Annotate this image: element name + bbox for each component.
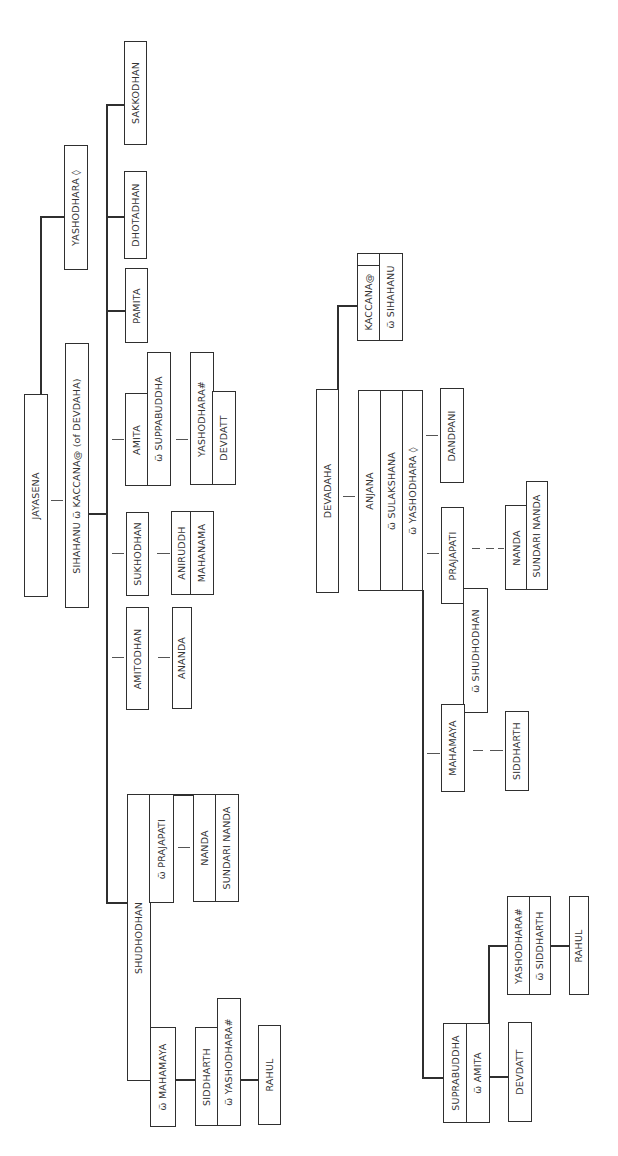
connector-line [106,104,125,106]
connector-line [40,216,42,395]
node-label: SIHAHANU ѿ KACCANA@ (of DEVDAHA) [72,378,82,574]
node-kaccana: KACCANA@ [357,253,381,341]
connector-dash [343,496,355,497]
node-label: DEVDATT [515,1049,525,1095]
node-devdatt-r: DEVDATT [508,1022,532,1122]
node-yashodhara-hash-r: YASHODHARA# [507,896,531,995]
connector-line [337,305,339,390]
node-yashodhara-hash: YASHODHARA# [190,352,214,485]
node-label: MAHAMAYA [448,720,458,775]
node-label: SIDDHARTH [202,1048,212,1106]
node-label: ѿ SULAKSHANA [387,452,397,530]
node-sukhodhan: SUKHODHAN [126,512,149,596]
node-label: YASHODHARA ◊ [71,169,81,245]
node-anjana: ANJANA [358,390,381,591]
node-label: ANANDA [177,637,187,679]
connector-line [88,513,107,515]
node-devdatt: DEVDATT [212,391,236,485]
node-dandpani: DANDPANI [440,388,464,483]
node-siddharth-husband: ѿ SIDDHARTH [529,896,551,995]
node-yashodhara-hash-wife: ѿ YASHODHARA# [217,998,241,1126]
node-rahul-r: RAHUL [569,896,589,995]
node-suppabuddha: ѿ SUPPABUDDHA [147,352,171,486]
node-mahamaya: MAHAMAYA [441,704,465,792]
node-label: ѿ PRAJAPATI [157,818,167,878]
node-label: ANIRUDDH [177,526,187,579]
node-label: NANDA [512,530,522,565]
node-amita-wife: ѿ AMITA [466,1023,490,1123]
node-label: DHOTADHAN [131,183,141,246]
connector-dash [112,439,124,440]
node-label: AMITODHAN [133,628,143,689]
connector-line [488,945,508,947]
node-label: ѿ SHUDHODHAN [471,609,481,693]
node-label: SIDDHARTH [512,722,522,780]
node-label: ѿ YASHODHARA# [224,1018,234,1105]
node-prajapati-wife: ѿ PRAJAPATI [149,794,174,903]
node-label: ѿ AMITA [473,1052,483,1093]
node-label: RAHUL [574,929,584,962]
node-mahamaya-wife: ѿ MAHAMAYA [150,1027,176,1127]
node-label: ѿ SUPPABUDDHA [154,376,164,462]
node-label: YASHODHARA# [197,380,207,456]
connector-line [422,1077,444,1079]
node-label: NANDA [200,830,210,865]
node-amita: AMITA [125,393,149,486]
node-suprabuddha: SUPRABUDDHA [443,1023,468,1123]
node-label: MAHANAMA [197,524,207,582]
connector-line [175,1079,195,1081]
node-label: SAKKODHAN [131,62,141,124]
node-label: AMITA [132,424,142,454]
connector-dash [158,657,170,658]
connector-line [489,1076,509,1078]
node-label: RAHUL [265,1058,275,1091]
node-label: ѿ MAHAMAYA [158,1044,168,1111]
node-label: ѿ YASHODHARA ◊ [408,447,418,534]
node-jayasena: JAYASENA [24,394,48,597]
node-label: DEVDATT [219,415,229,461]
node-dhotadhan: DHOTADHAN [124,171,147,259]
connector-line [550,945,570,947]
node-sihahanu-kaccana: SIHAHANU ѿ KACCANA@ (of DEVDAHA) [65,343,89,608]
node-siddharth-r: SIDDHARTH [505,711,529,791]
node-label: SUPRABUDDHA [451,1035,461,1110]
node-sulakshana: ѿ SULAKSHANA [380,390,403,591]
node-label: DANDPANI [447,410,457,461]
connector-line [337,305,358,307]
connector-dash [112,553,124,554]
connector-line [106,902,128,904]
node-label: PAMITA [132,288,142,323]
node-label: SHUDHODHAN [134,901,144,973]
node-label: YASHODHARA# [514,907,524,983]
node-label: SUKHODHAN [133,522,143,586]
node-shudhodhan: SHUDHODHAN [127,794,151,1081]
node-mahanama: MAHANAMA [190,511,214,595]
connector-dash [426,435,438,436]
connector-dash [176,439,188,440]
connector-line [106,104,108,903]
connector-line [173,794,194,796]
connector-dash [498,548,504,549]
node-label: ѿ SIDDHARTH [535,911,545,980]
node-label: DEVADAHA [323,464,333,519]
connector-dash [472,548,480,549]
node-sundari-nanda: SUNDARI NANDA [215,794,239,902]
connector-dash [51,500,63,501]
node-sundari-nanda-r: SUNDARI NANDA [526,481,548,590]
connector-dash [112,657,124,658]
node-pamita: PAMITA [125,268,148,343]
node-label: KACCANA@ [364,274,374,331]
node-yashodhara0-wife: ѿ YASHODHARA ◊ [402,390,423,591]
connector-line [422,590,424,1078]
node-label: JAYASENA [31,472,41,519]
node-sakkodhan: SAKKODHAN [124,41,147,145]
node-label: PRAJAPATI [448,531,458,580]
connector-line [40,216,65,218]
connector-dash [490,750,503,751]
node-label: ANJANA [365,472,375,510]
node-nanda: NANDA [193,794,217,902]
connector-line [488,945,490,1024]
connector-dash [486,548,494,549]
family-tree-diagram: JAYASENA SIHAHANU ѿ KACCANA@ (of DEVDAHA… [0,0,618,1156]
node-label: ѿ SIHAHANU [386,265,396,328]
